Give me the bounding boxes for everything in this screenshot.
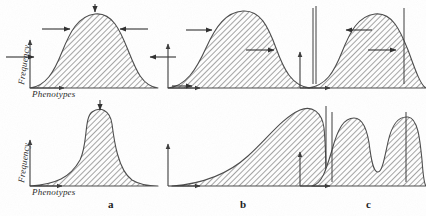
figure-canvas: Frequency Phenotypes [0,0,426,216]
paper-grain-overlay [0,0,426,216]
natural-selection-figure: Frequency Phenotypes [0,0,426,216]
